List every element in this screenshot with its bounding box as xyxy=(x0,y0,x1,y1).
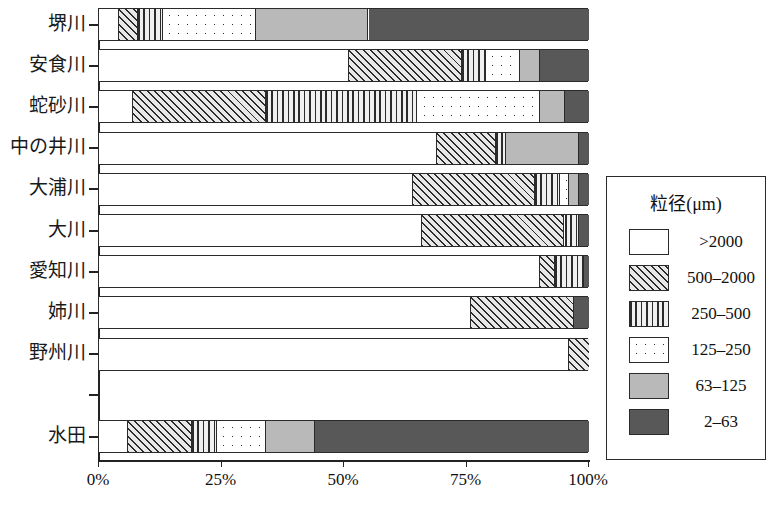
bar-row xyxy=(98,90,588,123)
bar-segment xyxy=(128,421,192,452)
value-tick-label: 25% xyxy=(205,470,236,490)
legend-label: 125–250 xyxy=(679,337,763,363)
bar-segment xyxy=(540,50,589,81)
bar-segment xyxy=(579,174,589,205)
value-tick xyxy=(343,460,344,467)
bar-segment xyxy=(192,421,217,452)
category-tick xyxy=(89,271,98,273)
bar-segment xyxy=(569,174,579,205)
bar-segment xyxy=(256,9,369,40)
legend-swatch xyxy=(629,337,669,363)
bar-segment xyxy=(565,215,580,246)
bar-segment xyxy=(163,9,256,40)
value-tick xyxy=(588,460,589,467)
value-tick-label: 50% xyxy=(327,470,358,490)
bar-segment xyxy=(574,297,589,328)
value-tick xyxy=(466,460,467,467)
bar-row xyxy=(98,173,588,206)
bar-segment xyxy=(369,9,590,40)
bar-segment xyxy=(579,133,589,164)
category-tick xyxy=(89,394,98,396)
category-label: 姉川 xyxy=(48,302,86,321)
bar-row xyxy=(98,296,588,329)
legend-swatch xyxy=(629,301,669,327)
legend-swatch xyxy=(629,373,669,399)
bar-segment xyxy=(418,91,541,122)
bar-segment xyxy=(99,256,540,287)
category-label: 蛇砂川 xyxy=(29,96,86,115)
bar-segment xyxy=(520,50,540,81)
legend-swatch xyxy=(629,409,669,435)
bar-segment xyxy=(99,339,569,370)
bar-segment xyxy=(99,133,437,164)
legend-item[interactable]: 2–63 xyxy=(607,405,765,439)
bar-segment xyxy=(99,174,413,205)
bar-segment xyxy=(471,297,574,328)
category-tick xyxy=(89,436,98,438)
bar-row xyxy=(98,132,588,165)
bar-segment xyxy=(555,256,584,287)
bar-segment xyxy=(506,133,580,164)
category-tick xyxy=(89,353,98,355)
bar-segment xyxy=(99,421,128,452)
value-tick xyxy=(221,460,222,467)
category-label: 堺川 xyxy=(48,14,86,33)
bar-segment xyxy=(413,174,536,205)
bar-row xyxy=(98,214,588,247)
bar-row xyxy=(98,8,588,41)
value-tick-label: 0% xyxy=(87,470,110,490)
category-tick xyxy=(89,106,98,108)
category-tick xyxy=(89,188,98,190)
bar-segment xyxy=(99,50,349,81)
bar-segment xyxy=(535,174,560,205)
value-tick xyxy=(98,460,99,467)
bar-segment xyxy=(540,91,565,122)
bar-segment xyxy=(349,50,462,81)
bar-segment xyxy=(496,133,506,164)
bar-segment xyxy=(133,91,265,122)
legend-item[interactable]: 500–2000 xyxy=(607,261,765,295)
category-label: 大浦川 xyxy=(29,178,86,197)
legend-label: 63–125 xyxy=(679,373,763,399)
category-label: 大川 xyxy=(48,220,86,239)
legend-label: 250–500 xyxy=(679,301,763,327)
plot-area xyxy=(98,8,588,460)
category-tick xyxy=(89,230,98,232)
value-axis-line xyxy=(98,460,590,462)
bar-segment xyxy=(99,91,133,122)
bar-segment xyxy=(99,297,471,328)
bar-segment xyxy=(119,9,139,40)
value-tick-label: 75% xyxy=(450,470,481,490)
legend-item[interactable]: 63–125 xyxy=(607,369,765,403)
category-tick xyxy=(89,312,98,314)
legend: 粒径(μm) >2000500–2000250–500125–25063–125… xyxy=(606,176,766,460)
bar-segment xyxy=(486,50,520,81)
bar-segment xyxy=(422,215,564,246)
category-label: 中の井川 xyxy=(10,137,86,156)
bar-segment xyxy=(315,421,589,452)
legend-item[interactable]: 125–250 xyxy=(607,333,765,367)
bar-row xyxy=(98,49,588,82)
bar-segment xyxy=(138,9,163,40)
category-label: 安食川 xyxy=(29,55,86,74)
category-label: 水田 xyxy=(48,426,86,445)
legend-label: 2–63 xyxy=(679,409,763,435)
bar-segment xyxy=(217,421,266,452)
bar-segment xyxy=(584,256,589,287)
bar-row xyxy=(98,255,588,288)
bar-segment xyxy=(560,174,570,205)
stacked-bar-chart: 堺川安食川蛇砂川中の井川大浦川大川愛知川姉川野州川水田 0%25%50%75%1… xyxy=(0,0,776,509)
bar-segment xyxy=(266,421,315,452)
bar-segment xyxy=(266,91,418,122)
legend-swatch xyxy=(629,265,669,291)
legend-item[interactable]: 250–500 xyxy=(607,297,765,331)
category-tick xyxy=(89,24,98,26)
legend-title: 粒径(μm) xyxy=(607,189,765,215)
category-tick xyxy=(89,147,98,149)
bar-segment xyxy=(565,91,590,122)
category-tick xyxy=(89,65,98,67)
legend-item[interactable]: >2000 xyxy=(607,225,765,259)
bar-segment xyxy=(569,339,589,370)
bar-segment xyxy=(99,215,422,246)
bar-row xyxy=(98,420,588,453)
